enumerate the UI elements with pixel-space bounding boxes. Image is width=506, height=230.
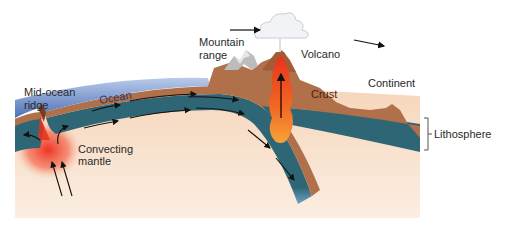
label-volcano: Volcano <box>301 48 340 60</box>
mountain-range <box>224 50 258 70</box>
label-mountain-range-line2: range <box>199 49 227 61</box>
label-mid-ocean-ridge: Mid-ocean <box>24 86 75 98</box>
lithosphere-bracket <box>424 118 432 150</box>
plate-motion-arrow-right <box>354 40 384 46</box>
label-crust: Crust <box>311 88 337 100</box>
label-convecting-mantle: Convecting <box>78 143 133 155</box>
label-convecting-mantle-line2: mantle <box>78 155 111 167</box>
label-mid-ocean-ridge-line2: ridge <box>24 99 48 111</box>
label-mountain-range: Mountain <box>199 36 244 48</box>
tectonics-diagram: Mid-ocean ridge Ocean Convecting mantle … <box>0 0 506 230</box>
eruption-cloud-icon <box>255 13 309 38</box>
label-continent: Continent <box>368 77 415 89</box>
label-lithosphere: Lithosphere <box>434 128 492 140</box>
